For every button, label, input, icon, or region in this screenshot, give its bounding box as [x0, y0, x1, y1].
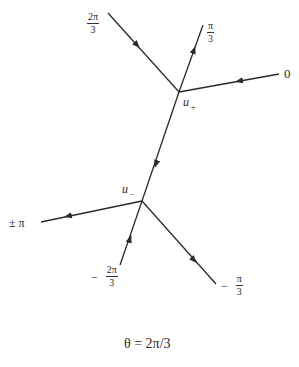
label-u-minus: u− [122, 183, 135, 199]
label-2pi3-den: 3 [91, 24, 96, 35]
label-u-minus-base: u [122, 182, 128, 196]
label-neg-pi3: − π 3 [221, 274, 243, 297]
label-pm-pi: ± π [9, 217, 25, 229]
edge-pi3 [179, 25, 203, 92]
label-neg-2pi3-sign: − [91, 270, 98, 284]
label-2pi3: 2π 3 [87, 7, 99, 35]
label-neg-pi3-sign: − [221, 279, 228, 293]
label-u-plus-sub: + [190, 102, 196, 112]
label-u-minus-sub: − [129, 189, 135, 199]
label-u-plus: u+ [183, 96, 196, 112]
edge-2pi3 [108, 13, 179, 92]
label-neg-2pi3-den: 3 [109, 277, 114, 288]
edge-pm-pi [41, 201, 142, 222]
edge-neg-pi3 [142, 201, 216, 284]
edge-connect [142, 92, 179, 201]
label-neg-pi3-num: π [236, 274, 243, 286]
label-2pi3-num: 2π [87, 12, 99, 24]
label-neg-pi3-den: 3 [237, 286, 242, 297]
label-zero: 0 [284, 67, 291, 80]
label-neg-2pi3: − 2π 3 [91, 265, 118, 288]
label-pi3: π 3 [207, 16, 214, 44]
label-neg-2pi3-num: 2π [106, 265, 118, 277]
label-pi3-den: 3 [208, 33, 213, 44]
label-u-plus-base: u [183, 95, 189, 109]
label-pi3-num: π [207, 21, 214, 33]
edge-0 [179, 74, 279, 92]
caption-theta: θ = 2π/3 [124, 337, 171, 351]
edge-neg-2pi3 [120, 201, 142, 265]
flow-diagram [0, 0, 299, 367]
